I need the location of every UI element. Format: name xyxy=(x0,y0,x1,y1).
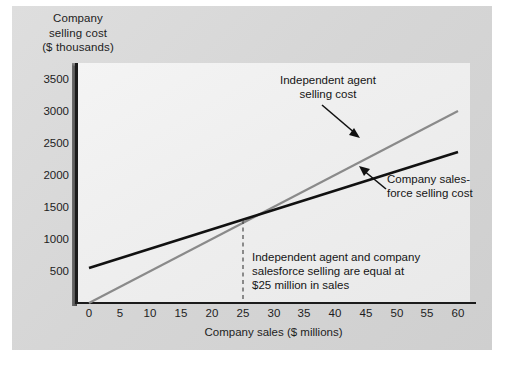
x-tick-label-60: 60 xyxy=(444,307,472,319)
x-tick-label-15: 15 xyxy=(167,307,195,319)
x-axis-line xyxy=(75,302,476,304)
x-tick-label-40: 40 xyxy=(321,307,349,319)
y-tick-label-1000: 1000 xyxy=(27,233,69,245)
x-axis-title: Company sales ($ millions) xyxy=(77,326,470,338)
annotation-independent-agent-line-1: Independent agent xyxy=(280,73,376,87)
x-tick-label-20: 20 xyxy=(198,307,226,319)
x-tick-label-10: 10 xyxy=(136,307,164,319)
annotation-company-salesforce-line-1: Company sales- xyxy=(387,172,473,186)
annotation-company-salesforce: Company sales- force selling cost xyxy=(387,172,473,200)
annotation-independent-agent-line-2: selling cost xyxy=(280,87,376,101)
x-tick-label-50: 50 xyxy=(383,307,411,319)
annotation-breakeven-note-line-1: Independent agent and company xyxy=(252,250,420,264)
x-tick-label-0: 0 xyxy=(75,307,103,319)
x-tick-label-45: 45 xyxy=(352,307,380,319)
y-tick-label-2500: 2500 xyxy=(27,137,69,149)
annotation-independent-agent: Independent agent selling cost xyxy=(280,73,376,101)
y-tick-label-3000: 3000 xyxy=(27,105,69,117)
y-axis-title-line-1: Company xyxy=(18,11,138,26)
y-axis-line xyxy=(75,63,78,304)
y-tick-label-3500: 3500 xyxy=(27,73,69,85)
x-tick-label-25: 25 xyxy=(229,307,257,319)
y-tick-label-500: 500 xyxy=(27,265,69,277)
annotation-company-salesforce-line-2: force selling cost xyxy=(387,186,473,200)
y-tick-label-2000: 2000 xyxy=(27,169,69,181)
annotation-breakeven-note-line-2: salesforce selling are equal at xyxy=(252,264,420,278)
y-axis-title-line-3: ($ thousands) xyxy=(18,40,138,55)
x-tick-label-30: 30 xyxy=(260,307,288,319)
y-tick-label-1500: 1500 xyxy=(27,201,69,213)
chart-figure: Company selling cost ($ thousands) 3500 … xyxy=(0,0,509,370)
annotation-breakeven-note-line-3: $25 million in sales xyxy=(252,278,420,292)
x-tick-label-35: 35 xyxy=(290,307,318,319)
annotation-breakeven-note: Independent agent and company salesforce… xyxy=(252,250,420,292)
y-axis-title: Company selling cost ($ thousands) xyxy=(18,11,138,55)
x-tick-label-55: 55 xyxy=(413,307,441,319)
x-tick-label-5: 5 xyxy=(106,307,134,319)
y-axis-title-line-2: selling cost xyxy=(18,26,138,41)
